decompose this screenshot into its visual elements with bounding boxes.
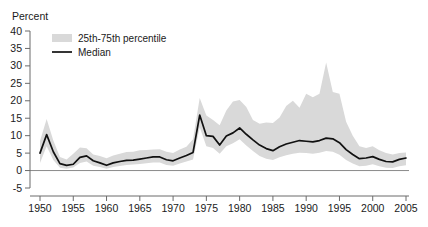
x-tick-label: 1965 bbox=[128, 202, 152, 214]
y-tick-label: 35 bbox=[10, 42, 22, 54]
x-tick-label: 1985 bbox=[261, 202, 285, 214]
y-tick-label: -5 bbox=[13, 182, 22, 194]
legend-band-swatch bbox=[52, 34, 72, 42]
y-tick-label: 25 bbox=[10, 77, 22, 89]
legend-band-label: 25th-75th percentile bbox=[78, 33, 167, 44]
y-axis-title: Percent bbox=[12, 10, 48, 22]
y-tick-label: 20 bbox=[10, 94, 22, 106]
x-tick-label: 2000 bbox=[361, 202, 385, 214]
x-tick-label: 1995 bbox=[328, 202, 352, 214]
y-tick-label: 5 bbox=[16, 147, 22, 159]
x-tick-label: 1980 bbox=[228, 202, 252, 214]
chart-container: -505101520253035401950195519601965197019… bbox=[0, 0, 428, 227]
x-tick-label: 1990 bbox=[295, 202, 319, 214]
x-tick-label: 2005 bbox=[394, 202, 418, 214]
y-tick-label: 0 bbox=[16, 164, 22, 176]
x-tick-label: 1970 bbox=[161, 202, 185, 214]
y-tick-label: 30 bbox=[10, 59, 22, 71]
y-tick-label: 10 bbox=[10, 129, 22, 141]
x-tick-label: 1975 bbox=[195, 202, 219, 214]
legend-median-label: Median bbox=[78, 47, 111, 58]
y-tick-label: 15 bbox=[10, 112, 22, 124]
x-tick-label: 1955 bbox=[62, 202, 86, 214]
percentile-chart: -505101520253035401950195519601965197019… bbox=[0, 0, 428, 227]
x-tick-label: 1950 bbox=[28, 202, 52, 214]
x-tick-label: 1960 bbox=[95, 202, 119, 214]
y-tick-label: 40 bbox=[10, 25, 22, 37]
